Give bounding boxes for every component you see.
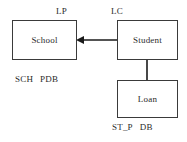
- annotation-school-tag: SCHPDB: [15, 75, 58, 84]
- node-school-label: School: [31, 36, 57, 45]
- node-student[interactable]: Student: [117, 20, 178, 60]
- loan-tag-part2: DB: [140, 122, 153, 132]
- annotation-lc: LC: [111, 7, 123, 16]
- annotation-lp: LP: [56, 7, 67, 16]
- entity-relationship-diagram: School Student Loan LP LC SCHPDB ST_PDB: [0, 0, 187, 142]
- annotation-loan-tag: ST_PDB: [112, 123, 153, 132]
- school-tag-part2: PDB: [40, 74, 58, 84]
- loan-tag-part1: ST_P: [112, 122, 133, 132]
- arrowhead-left-icon: [76, 36, 84, 44]
- school-tag-part1: SCH: [15, 74, 33, 84]
- node-student-label: Student: [133, 36, 162, 45]
- node-school[interactable]: School: [12, 20, 77, 60]
- node-loan[interactable]: Loan: [117, 80, 178, 118]
- node-loan-label: Loan: [138, 95, 157, 104]
- edge-student-to-school: [76, 36, 117, 44]
